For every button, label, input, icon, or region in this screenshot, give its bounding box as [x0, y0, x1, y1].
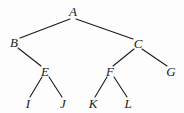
tree-edge-f-l: [114, 77, 127, 97]
tree-node-k: K: [89, 97, 98, 110]
tree-node-c: C: [134, 37, 143, 50]
edge-group: [18, 19, 167, 97]
tree-node-f: F: [106, 65, 114, 78]
tree-node-i: I: [26, 97, 30, 110]
tree-edge-e-i: [30, 77, 42, 97]
tree-edge-a-c: [76, 19, 133, 39]
binary-tree-diagram: ABCEFGIJKL: [0, 0, 184, 113]
tree-node-e: E: [41, 65, 49, 78]
tree-edge-f-k: [95, 77, 107, 97]
tree-edge-c-g: [142, 49, 167, 66]
tree-edge-b-e: [18, 48, 41, 66]
tree-node-b: B: [10, 36, 18, 49]
tree-node-a: A: [69, 5, 77, 18]
tree-edge-e-j: [49, 77, 62, 97]
tree-node-g: G: [166, 65, 175, 78]
tree-node-l: L: [124, 97, 131, 110]
tree-edge-a-b: [20, 19, 70, 38]
tree-edge-c-f: [113, 49, 134, 66]
tree-node-j: J: [60, 97, 66, 110]
